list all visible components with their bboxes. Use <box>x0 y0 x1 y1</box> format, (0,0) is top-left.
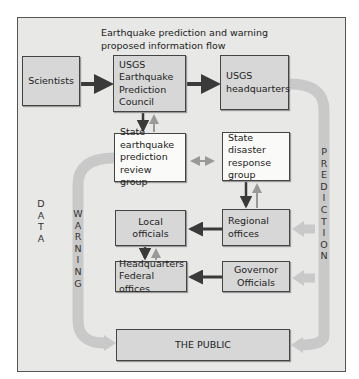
node-regional-offices: Regional offices <box>222 209 290 246</box>
node-scientists: Scientists <box>22 56 80 106</box>
node-state-review-group: State earthquake prediction review group <box>114 133 186 182</box>
node-hq-federal-offices: Headquarters Federal offices <box>115 261 187 292</box>
node-governor-officials: Governor Officials <box>222 261 290 292</box>
diagram-title: Earthquake prediction and warning propos… <box>101 26 268 52</box>
label-warning: WARNING <box>72 208 84 289</box>
node-usgs-council: USGS Earthquake Prediction Council <box>113 55 186 112</box>
node-usgs-headquarters: USGS headquarters <box>220 55 289 110</box>
node-local-officials: Local officials <box>115 210 186 246</box>
label-data: DATA <box>35 198 47 244</box>
label-prediction: PREDICTION <box>318 146 330 262</box>
node-state-disaster-group: State disaster response group <box>222 132 290 181</box>
node-the-public: THE PUBLIC <box>116 329 290 361</box>
